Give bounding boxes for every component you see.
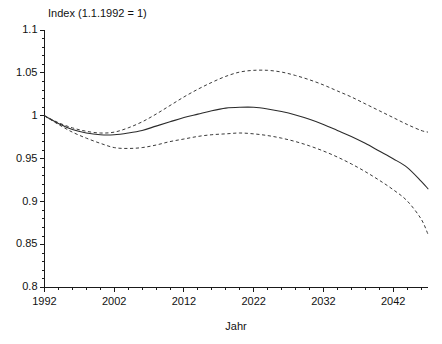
- x-tick-label: 2022: [241, 295, 265, 307]
- x-tick-label: 2032: [311, 295, 335, 307]
- y-tick-label: 1.05: [16, 66, 37, 78]
- x-axis-tick-labels: 199220022012202220322042: [32, 295, 405, 307]
- x-tick-label: 1992: [32, 295, 56, 307]
- x-tick-label: 2012: [172, 295, 196, 307]
- y-tick-label: 0.8: [22, 280, 37, 292]
- series-line-central-projection: [45, 107, 429, 189]
- chart-canvas: Index (1.1.1992 = 1) 0.80.850.90.9511.05…: [0, 0, 442, 344]
- y-tick-label: 0.9: [22, 195, 37, 207]
- x-tick-label: 2042: [381, 295, 405, 307]
- y-tick-label: 1: [31, 109, 37, 121]
- axis-tick-marks: [40, 30, 421, 292]
- series-line-lower-bound: [45, 116, 429, 234]
- x-axis-title: Jahr: [225, 320, 247, 332]
- y-axis-tick-labels: 0.80.850.90.9511.051.1: [16, 23, 37, 293]
- plot-title-group: Index (1.1.1992 = 1): [48, 7, 147, 19]
- y-tick-label: 1.1: [22, 23, 37, 35]
- series-line-upper-bound: [45, 70, 429, 133]
- y-tick-label: 0.85: [16, 237, 37, 249]
- chart-figure: Index (1.1.1992 = 1) 0.80.850.90.9511.05…: [0, 0, 442, 344]
- x-tick-label: 2002: [102, 295, 126, 307]
- chart-title: Index (1.1.1992 = 1): [48, 7, 147, 19]
- y-tick-label: 0.95: [16, 152, 37, 164]
- data-series-group: [45, 70, 429, 234]
